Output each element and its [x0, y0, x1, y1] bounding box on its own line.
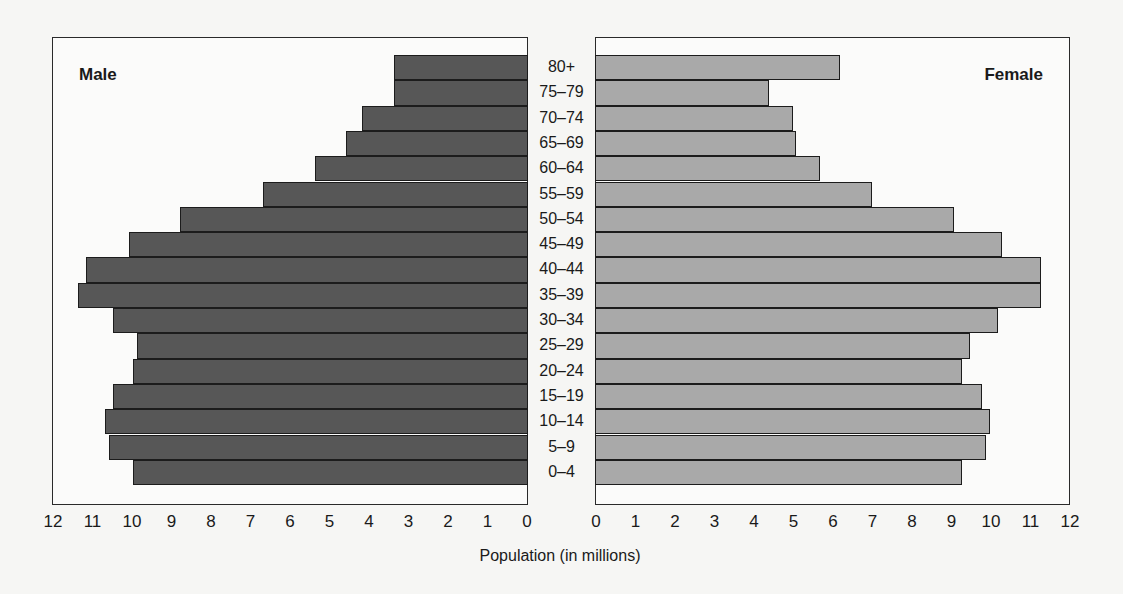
age-group-label: 35–39	[528, 282, 595, 307]
x-tick-label: 0	[581, 512, 611, 532]
age-group-label: 20–24	[528, 358, 595, 383]
age-group-label: 40–44	[528, 256, 595, 281]
female-bar	[595, 359, 962, 384]
x-tick-label: 0	[512, 512, 542, 532]
female-bar	[595, 460, 962, 485]
x-tick-label: 2	[433, 512, 463, 532]
female-bar	[595, 182, 872, 207]
male-panel: Male	[52, 37, 528, 505]
male-bar	[394, 55, 528, 80]
male-bar	[133, 359, 528, 384]
x-tick-label: 7	[858, 512, 888, 532]
female-bar	[595, 435, 986, 460]
female-bar	[595, 55, 840, 80]
female-bar	[595, 80, 769, 105]
age-group-label: 10–14	[528, 408, 595, 433]
male-bar	[180, 207, 528, 232]
x-tick-label: 3	[394, 512, 424, 532]
female-bar	[595, 207, 954, 232]
male-bar	[113, 384, 528, 409]
age-group-label: 55–59	[528, 181, 595, 206]
female-bar	[595, 257, 1041, 282]
x-tick-label: 7	[236, 512, 266, 532]
x-tick-label: 10	[117, 512, 147, 532]
male-bar	[78, 283, 528, 308]
male-bar	[315, 156, 528, 181]
x-tick-label: 1	[621, 512, 651, 532]
male-bar	[105, 409, 528, 434]
x-tick-label: 12	[38, 512, 68, 532]
female-bar	[595, 232, 1002, 257]
x-tick-label: 8	[897, 512, 927, 532]
x-tick-label: 10	[976, 512, 1006, 532]
age-group-label: 5–9	[528, 434, 595, 459]
x-tick-label: 2	[660, 512, 690, 532]
x-tick-label: 9	[937, 512, 967, 532]
male-bar	[362, 106, 528, 131]
male-bar	[346, 131, 528, 156]
female-bar	[595, 409, 990, 434]
male-bar	[263, 182, 528, 207]
x-tick-label: 8	[196, 512, 226, 532]
x-tick-label: 11	[1016, 512, 1046, 532]
male-bar	[109, 435, 528, 460]
x-tick-label: 9	[157, 512, 187, 532]
age-group-label: 80+	[528, 54, 595, 79]
female-bar	[595, 106, 793, 131]
age-group-label: 60–64	[528, 155, 595, 180]
male-bar	[133, 460, 528, 485]
x-tick-label: 4	[739, 512, 769, 532]
age-group-label: 50–54	[528, 206, 595, 231]
female-bar	[595, 156, 820, 181]
x-tick-label: 4	[354, 512, 384, 532]
male-bar	[137, 333, 528, 358]
female-bar	[595, 308, 998, 333]
male-bar	[394, 80, 528, 105]
female-bar	[595, 131, 796, 156]
age-group-label: 30–34	[528, 307, 595, 332]
x-tick-label: 5	[315, 512, 345, 532]
age-group-label: 70–74	[528, 105, 595, 130]
x-tick-label: 6	[818, 512, 848, 532]
age-group-label: 0–4	[528, 459, 595, 484]
age-group-label: 25–29	[528, 332, 595, 357]
male-bar	[86, 257, 528, 282]
age-group-label: 75–79	[528, 79, 595, 104]
age-group-label: 15–19	[528, 383, 595, 408]
male-bar	[129, 232, 528, 257]
x-tick-label: 5	[779, 512, 809, 532]
age-group-label: 65–69	[528, 130, 595, 155]
x-axis-label: Population (in millions)	[400, 547, 720, 565]
female-bar	[595, 283, 1041, 308]
x-tick-label: 1	[473, 512, 503, 532]
female-panel: Female	[595, 37, 1070, 505]
x-tick-label: 6	[275, 512, 305, 532]
male-panel-title: Male	[79, 65, 117, 85]
age-group-label: 45–49	[528, 231, 595, 256]
female-panel-title: Female	[984, 65, 1043, 85]
male-bar	[113, 308, 528, 333]
female-bar	[595, 384, 982, 409]
x-tick-label: 11	[78, 512, 108, 532]
female-bar	[595, 333, 970, 358]
x-tick-label: 3	[700, 512, 730, 532]
x-tick-label: 12	[1055, 512, 1085, 532]
